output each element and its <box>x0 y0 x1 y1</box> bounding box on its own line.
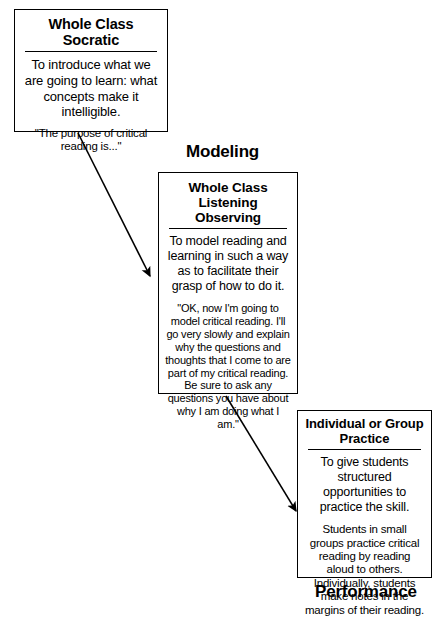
box-title-listening-line2: Listening Observing <box>165 195 291 225</box>
flowchart-diagram: Whole Class Socratic To introduce what w… <box>0 0 438 617</box>
box-title-socratic: Whole Class Socratic <box>21 16 161 48</box>
arrow-socratic-to-listening <box>78 133 150 276</box>
box-purpose-practice: To give students structured opportunitie… <box>304 455 425 515</box>
box-purpose-listening: To model reading and learning in such a … <box>165 234 291 294</box>
box-title-practice-line1: Individual or Group <box>304 417 425 432</box>
phase-caption-performance: Performance <box>315 582 417 602</box>
box-quote-socratic: "The purpose of critical reading is..." <box>21 127 161 154</box>
stage-box-socratic: Whole Class Socratic To introduce what w… <box>14 9 168 132</box>
title-divider <box>25 51 157 52</box>
title-divider <box>169 228 287 229</box>
box-quote-practice: Students in small groups practice critic… <box>304 523 425 617</box>
title-divider <box>308 449 421 450</box>
box-title-practice-line2: Practice <box>304 432 425 447</box>
phase-caption-modeling: Modeling <box>186 142 259 162</box>
box-title-practice: Individual or Group Practice <box>304 417 425 446</box>
stage-box-listening-observing: Whole Class Listening Observing To model… <box>158 172 298 394</box>
box-title-listening: Whole Class Listening Observing <box>165 180 291 225</box>
box-quote-listening: "OK, now I'm going to model critical rea… <box>165 302 291 431</box>
stage-box-individual-group-practice: Individual or Group Practice To give stu… <box>297 410 432 578</box>
box-title-listening-line1: Whole Class <box>165 180 291 195</box>
box-purpose-socratic: To introduce what we are going to learn:… <box>21 57 161 119</box>
